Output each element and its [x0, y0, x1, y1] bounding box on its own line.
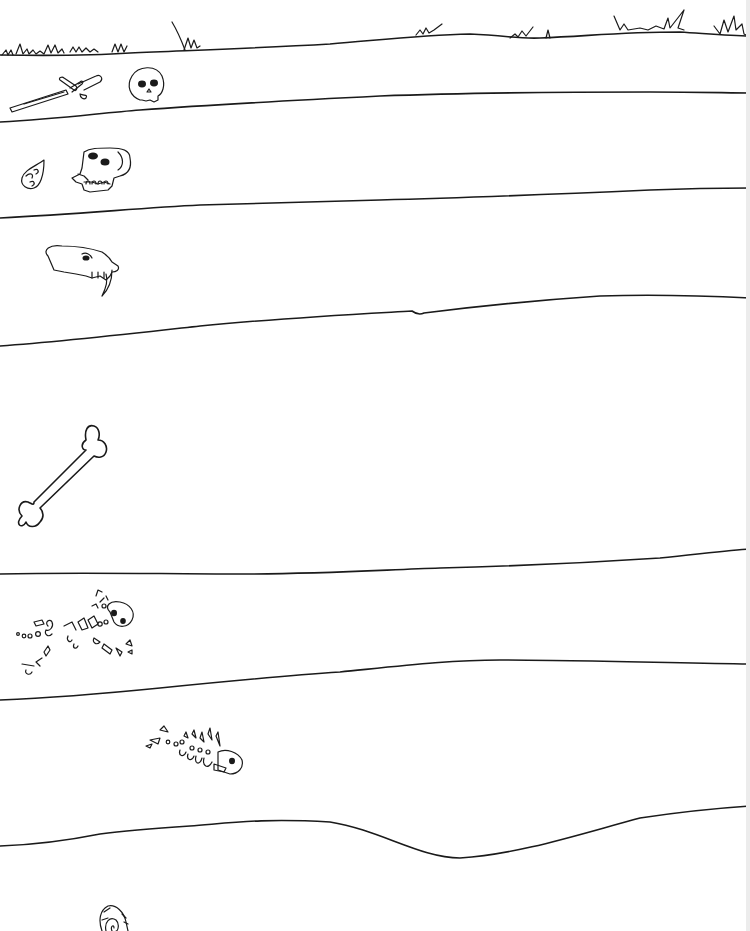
fish-skeleton-icon [146, 726, 242, 774]
stratum-boundary-1 [0, 92, 750, 122]
ground-surface [0, 10, 750, 55]
stratum-boundary-2 [0, 188, 750, 218]
sword-icon [10, 75, 102, 112]
arrowhead-icon [22, 160, 44, 189]
stratum-boundary-5 [0, 660, 750, 700]
paper-edge [746, 0, 750, 931]
large-bone-icon [19, 426, 107, 527]
human-skull-icon [129, 68, 163, 102]
strata-lines [0, 92, 750, 858]
rock-layers-diagram: Rock layers with fossils [0, 0, 750, 931]
sabertooth-skull-icon [46, 246, 119, 296]
reptile-skeleton-icon [17, 590, 134, 674]
stratum-boundary-4 [0, 549, 750, 574]
stratum-boundary-3 [0, 295, 750, 346]
ape-skull-icon [72, 148, 131, 192]
stratum-boundary-6 [0, 806, 750, 858]
ammonite-shell-icon [100, 906, 128, 931]
diagram-canvas [0, 0, 750, 931]
